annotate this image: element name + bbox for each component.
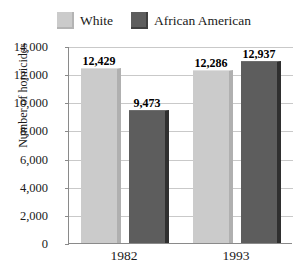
x-tick-label-1982: 1982 xyxy=(111,249,138,263)
y-tick-mark xyxy=(65,216,69,217)
y-tick-mark xyxy=(65,188,69,189)
y-tick-mark xyxy=(65,160,69,161)
y-tick-mark xyxy=(65,244,69,245)
bar-white-1993: 12,286 xyxy=(193,70,233,243)
y-tick-label: 2,000 xyxy=(0,210,48,223)
y-tick-mark xyxy=(65,103,69,104)
legend-entry-african-american: African American xyxy=(131,12,251,29)
y-tick-label: 12,000 xyxy=(0,69,48,82)
bar-value-label: 12,937 xyxy=(243,48,276,60)
legend-swatch-white-icon xyxy=(57,12,74,29)
y-tick-label: 6,000 xyxy=(0,153,48,166)
y-tick-label: 8,000 xyxy=(0,125,48,138)
bar-white-1982: 12,429 xyxy=(81,68,121,243)
bar-value-label: 9,473 xyxy=(134,97,161,109)
bar-value-label: 12,429 xyxy=(83,55,116,67)
homicides-bar-chart: White African American Number of homicid… xyxy=(0,0,308,280)
y-tick-mark xyxy=(65,75,69,76)
bar-value-label: 12,286 xyxy=(195,57,228,69)
x-tick-label-1993: 1993 xyxy=(223,249,250,263)
legend-entry-white: White xyxy=(57,12,113,29)
y-tick-mark xyxy=(65,47,69,48)
y-tick-label: 4,000 xyxy=(0,181,48,194)
y-tick-label: 14,000 xyxy=(0,41,48,54)
y-tick-label: 0 xyxy=(0,238,48,251)
plot-area: 02,0004,0006,0008,00010,00012,00014,0001… xyxy=(68,47,292,244)
y-tick-label: 10,000 xyxy=(0,97,48,110)
bar-african-american-1993: 12,937 xyxy=(241,61,281,243)
legend-label-african-american: African American xyxy=(154,14,251,28)
legend-label-white: White xyxy=(80,14,113,28)
y-tick-mark xyxy=(65,131,69,132)
legend-swatch-african-american-icon xyxy=(131,12,148,29)
chart-legend: White African American xyxy=(0,12,308,29)
bar-african-american-1982: 9,473 xyxy=(129,110,169,243)
